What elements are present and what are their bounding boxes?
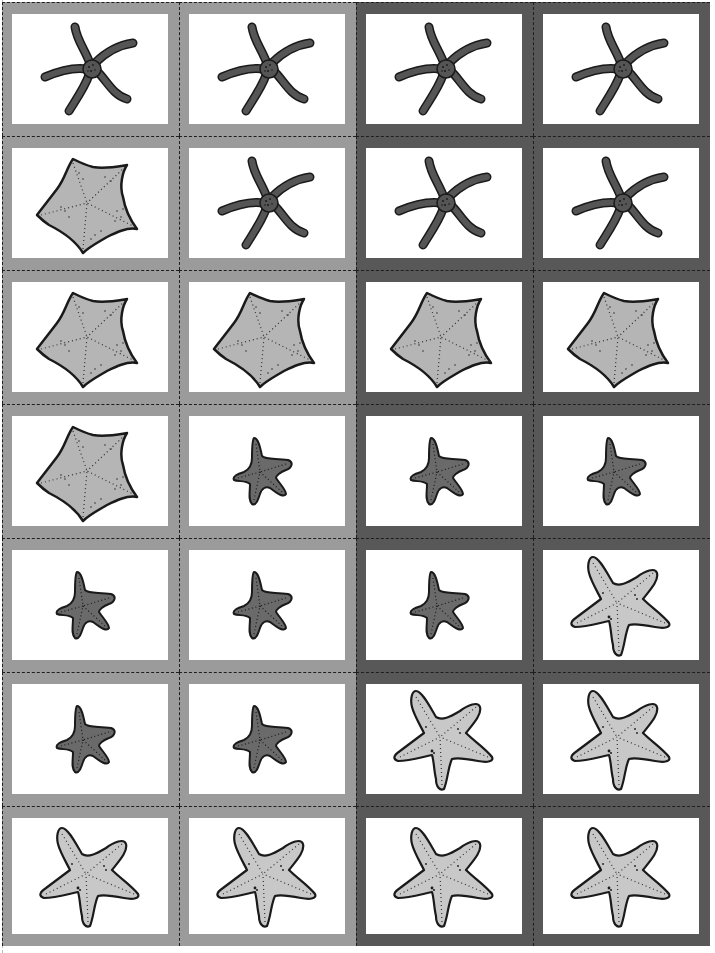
small-starfish-icon	[586, 436, 656, 506]
brittle-star-icon	[212, 153, 322, 253]
large-starfish-icon	[38, 824, 142, 928]
brittle-star-icon	[389, 153, 499, 253]
large-starfish-icon	[215, 824, 319, 928]
card-frame-dark	[356, 270, 533, 404]
card-r3-c2[interactable]	[189, 282, 345, 392]
brittle-star-icon	[212, 19, 322, 119]
card-frame-dark	[356, 2, 533, 136]
card-frame-dark	[533, 672, 710, 806]
card-frame-light	[2, 2, 179, 136]
small-starfish-icon	[409, 436, 479, 506]
card-r1-c2[interactable]	[189, 14, 345, 124]
card-frame-light	[2, 270, 179, 404]
brittle-star-icon	[389, 19, 499, 119]
card-frame-light	[179, 806, 356, 946]
small-starfish-icon	[55, 704, 125, 774]
card-r6-c4[interactable]	[543, 684, 699, 794]
card-frame-dark	[356, 806, 533, 946]
card-frame-dark	[356, 538, 533, 672]
card-frame-dark	[533, 136, 710, 270]
card-frame-light	[2, 538, 179, 672]
card-r2-c2[interactable]	[189, 148, 345, 258]
card-frame-light	[179, 672, 356, 806]
card-r6-c1[interactable]	[12, 684, 168, 794]
large-starfish-icon	[569, 687, 673, 791]
card-r4-c3[interactable]	[366, 416, 522, 526]
cushion-star-icon	[35, 285, 145, 389]
card-r6-c3[interactable]	[366, 684, 522, 794]
card-r5-c2[interactable]	[189, 550, 345, 660]
card-r4-c2[interactable]	[189, 416, 345, 526]
card-r2-c1[interactable]	[12, 148, 168, 258]
card-r5-c4[interactable]	[543, 550, 699, 660]
card-r1-c3[interactable]	[366, 14, 522, 124]
large-starfish-icon	[569, 824, 673, 928]
cushion-star-icon	[566, 285, 676, 389]
card-r7-c2[interactable]	[189, 818, 345, 934]
card-frame-dark	[533, 404, 710, 538]
card-frame-light	[179, 270, 356, 404]
small-starfish-icon	[55, 570, 125, 640]
card-frame-light	[179, 2, 356, 136]
card-r1-c4[interactable]	[543, 14, 699, 124]
cushion-star-icon	[212, 285, 322, 389]
card-frame-dark	[533, 2, 710, 136]
card-r5-c3[interactable]	[366, 550, 522, 660]
cushion-star-icon	[35, 419, 145, 523]
card-frame-dark	[356, 404, 533, 538]
card-frame-light	[2, 806, 179, 946]
card-frame-light	[179, 538, 356, 672]
large-starfish-icon	[392, 687, 496, 791]
card-r6-c2[interactable]	[189, 684, 345, 794]
card-r3-c3[interactable]	[366, 282, 522, 392]
brittle-star-icon	[566, 153, 676, 253]
brittle-star-icon	[566, 19, 676, 119]
card-r2-c3[interactable]	[366, 148, 522, 258]
card-frame-light	[2, 672, 179, 806]
cushion-star-icon	[35, 151, 145, 255]
card-frame-light	[2, 404, 179, 538]
card-frame-dark	[533, 270, 710, 404]
small-starfish-icon	[409, 570, 479, 640]
card-r4-c4[interactable]	[543, 416, 699, 526]
small-starfish-icon	[232, 436, 302, 506]
small-starfish-icon	[232, 570, 302, 640]
card-frame-dark	[356, 136, 533, 270]
card-grid	[2, 2, 710, 946]
card-r5-c1[interactable]	[12, 550, 168, 660]
card-r7-c3[interactable]	[366, 818, 522, 934]
card-r1-c1[interactable]	[12, 14, 168, 124]
card-r4-c1[interactable]	[12, 416, 168, 526]
card-frame-light	[179, 404, 356, 538]
card-r7-c4[interactable]	[543, 818, 699, 934]
card-frame-dark	[533, 806, 710, 946]
card-r2-c4[interactable]	[543, 148, 699, 258]
small-starfish-icon	[232, 704, 302, 774]
card-r3-c1[interactable]	[12, 282, 168, 392]
card-frame-light	[2, 136, 179, 270]
cushion-star-icon	[389, 285, 499, 389]
card-r7-c1[interactable]	[12, 818, 168, 934]
card-frame-dark	[356, 672, 533, 806]
card-frame-light	[179, 136, 356, 270]
brittle-star-icon	[35, 19, 145, 119]
large-starfish-icon	[392, 824, 496, 928]
card-frame-dark	[533, 538, 710, 672]
card-r3-c4[interactable]	[543, 282, 699, 392]
large-starfish-icon	[569, 553, 673, 657]
